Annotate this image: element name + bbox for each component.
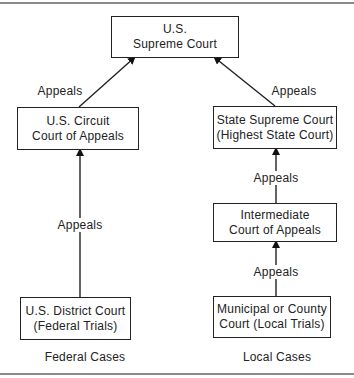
caption-federal-cases: Federal Cases <box>43 350 128 364</box>
node-us-circuit-court: U.S. Circuit Court of Appeals <box>17 107 139 150</box>
node-intermediate-court: Intermediate Court of Appeals <box>213 203 337 242</box>
node-line: State Supreme Court <box>217 113 334 128</box>
node-us-supreme-court: U.S. Supreme Court <box>111 16 239 58</box>
edge-label-municipal-to-intermediate: Appeals <box>252 265 301 279</box>
edge-label-state-to-supreme: Appeals <box>270 84 319 98</box>
node-line: U.S. District Court <box>26 304 126 319</box>
edge-label-circuit-to-supreme: Appeals <box>36 84 85 98</box>
edge-label-district-to-circuit: Appeals <box>56 218 105 232</box>
node-line: Court (Local Trials) <box>219 317 324 332</box>
node-line: U.S. Circuit <box>46 114 109 129</box>
node-line: U.S. <box>163 22 187 37</box>
node-state-supreme-court: State Supreme Court (Highest State Court… <box>213 106 337 149</box>
node-line: Municipal or County <box>217 302 327 317</box>
node-line: (Highest State Court) <box>217 128 334 143</box>
caption-local-cases: Local Cases <box>241 350 313 364</box>
node-municipal-court: Municipal or County Court (Local Trials) <box>213 296 331 338</box>
edge-label-intermediate-to-state: Appeals <box>252 171 301 185</box>
node-line: Court of Appeals <box>32 129 124 144</box>
node-line: Supreme Court <box>133 37 217 52</box>
node-line: (Federal Trials) <box>34 319 118 334</box>
node-us-district-court: U.S. District Court (Federal Trials) <box>20 297 131 340</box>
node-line: Intermediate <box>240 208 309 223</box>
node-line: Court of Appeals <box>229 223 321 238</box>
